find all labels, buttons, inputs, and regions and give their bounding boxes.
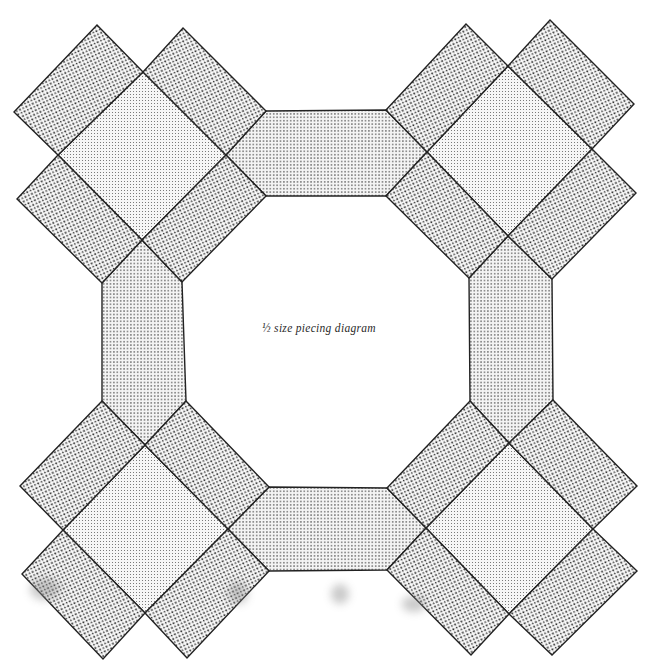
- hexagon-bottom: [228, 487, 426, 571]
- scan-smudge: [228, 582, 248, 604]
- hexagon-top: [226, 110, 427, 196]
- diagram-caption: ½ size piecing diagram: [262, 322, 376, 334]
- piecing-diagram: [0, 0, 656, 670]
- scan-smudge: [402, 596, 426, 612]
- scan-smudge: [30, 578, 60, 600]
- scan-smudge: [331, 584, 349, 604]
